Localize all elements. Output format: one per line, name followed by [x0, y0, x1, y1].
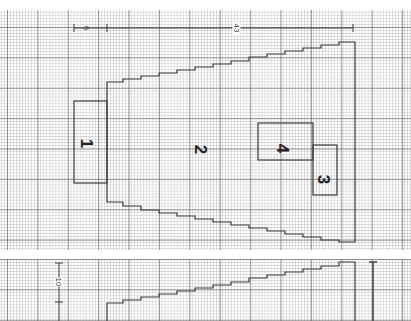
stepped-outline-partial	[107, 262, 355, 321]
region-label-2: 2	[192, 145, 209, 154]
region-label-4: 4	[274, 144, 291, 153]
dimension-label-43: 43	[232, 22, 240, 35]
floor-plan-outline	[0, 10, 411, 250]
floor-plan-outline-partial	[0, 259, 411, 321]
region-label-3: 3	[315, 175, 332, 184]
dimension-line-left	[55, 263, 63, 321]
bottom-plan-panel: 10	[0, 259, 411, 321]
wall-line-right	[369, 262, 377, 321]
dimension-line-top	[74, 24, 353, 32]
dimension-label-6: 6	[82, 26, 90, 30]
region-2-outline	[107, 42, 355, 242]
region-3-outline	[313, 145, 337, 195]
top-plan-panel: 6 43 1 2 3 4	[0, 10, 411, 250]
dimension-label-10: 10	[54, 278, 62, 287]
region-label-1: 1	[78, 139, 95, 148]
region-4-outline	[258, 123, 313, 160]
